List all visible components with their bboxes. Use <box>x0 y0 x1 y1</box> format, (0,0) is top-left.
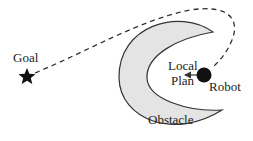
local-plan-label-line2: Plan <box>171 73 195 88</box>
goal-star-icon <box>19 68 36 84</box>
robot-label: Robot <box>209 79 241 94</box>
diagram-canvas: Goal Local Plan Robot Obstacle <box>0 0 253 141</box>
local-plan-label-line1: Local <box>168 58 198 73</box>
goal-label: Goal <box>13 50 39 65</box>
obstacle-label: Obstacle <box>148 112 194 127</box>
diagram-svg: Goal Local Plan Robot Obstacle <box>0 0 253 141</box>
